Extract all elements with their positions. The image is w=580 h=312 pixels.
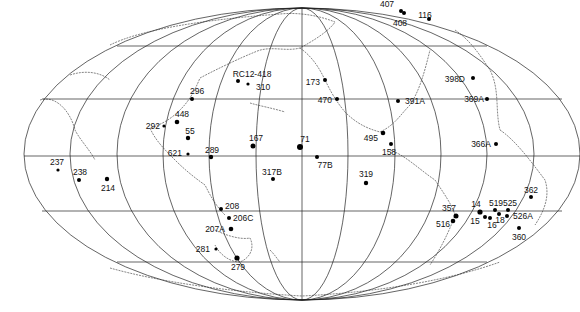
site-marker: 292: [146, 121, 166, 131]
coastlines: [40, 13, 547, 296]
site-dot-icon: [477, 209, 482, 214]
site-label: 519: [489, 198, 503, 208]
site-label: 207A: [205, 224, 225, 234]
site-dot-icon: [209, 155, 213, 159]
site-label: 292: [146, 121, 160, 131]
site-marker: 516: [436, 219, 455, 229]
site-dot-icon: [214, 247, 217, 250]
site-marker: 18: [495, 212, 505, 225]
site-dot-icon: [297, 144, 303, 150]
site-marker: 289: [205, 145, 219, 159]
graticule: [24, 8, 580, 300]
site-dot-icon: [364, 181, 368, 185]
site-label: 18: [495, 215, 505, 225]
site-marker: 366A: [471, 139, 498, 149]
site-label: 407: [380, 0, 394, 9]
site-dot-icon: [162, 124, 165, 127]
site-marker: 369A: [464, 94, 489, 104]
site-marker: 470: [318, 95, 339, 105]
site-label: 317B: [262, 167, 282, 177]
site-label: 208: [225, 201, 239, 211]
site-label: 15: [470, 216, 480, 226]
site-marker: 71: [297, 134, 310, 150]
site-marker: 495: [364, 131, 385, 143]
site-label: 214: [101, 183, 115, 193]
site-dot-icon: [506, 208, 510, 212]
site-marker: 207A: [205, 224, 233, 234]
site-dot-icon: [251, 144, 256, 149]
site-dot-icon: [236, 79, 240, 83]
site-dot-icon: [517, 226, 521, 230]
site-dot-icon: [234, 255, 239, 260]
site-marker: 15: [470, 215, 487, 226]
site-label: 516: [436, 219, 450, 229]
site-marker: 208: [219, 201, 239, 211]
site-label: 391A: [405, 96, 425, 106]
site-label: 526A: [513, 211, 533, 221]
site-dot-icon: [381, 131, 386, 136]
site-label: 238: [73, 167, 87, 177]
site-dot-icon: [105, 177, 109, 181]
site-marker: 391A: [396, 96, 425, 106]
site-label: 279: [231, 262, 245, 272]
site-label: 398D: [445, 74, 465, 84]
site-dot-icon: [229, 227, 234, 232]
site-marker: 448: [175, 109, 190, 124]
site-dot-icon: [505, 214, 509, 218]
site-marker: 214: [101, 177, 115, 193]
site-marker: 357: [442, 203, 459, 219]
site-marker: 238: [73, 167, 87, 182]
site-label: 281: [196, 244, 210, 254]
site-label: 71: [300, 134, 310, 144]
site-dot-icon: [271, 177, 275, 181]
site-dot-icon: [186, 136, 190, 140]
site-label: 369A: [464, 94, 484, 104]
site-marker: 158: [382, 142, 396, 157]
site-dot-icon: [493, 208, 497, 212]
site-label: 296: [190, 86, 204, 96]
site-label: RC12-418: [233, 69, 272, 79]
site-dot-icon: [315, 155, 319, 159]
site-label: 525: [503, 198, 517, 208]
site-dot-icon: [77, 178, 81, 182]
site-label: 77B: [317, 160, 332, 170]
site-label: 237: [50, 157, 64, 167]
site-label: 173: [306, 77, 320, 87]
site-label: 116: [418, 10, 432, 20]
site-dot-icon: [485, 97, 489, 101]
site-marker: 55: [185, 126, 195, 140]
site-marker: 317B: [262, 167, 282, 181]
site-dot-icon: [396, 99, 400, 103]
site-dot-icon: [227, 216, 231, 220]
site-dot-icon: [323, 78, 327, 82]
site-marker: 319: [359, 169, 373, 185]
site-marker: 237: [50, 157, 64, 172]
site-dot-icon: [190, 97, 194, 101]
site-dot-icon: [335, 97, 339, 101]
site-label: 319: [359, 169, 373, 179]
site-label: 495: [364, 133, 378, 143]
site-dot-icon: [186, 152, 189, 155]
site-dot-icon: [454, 214, 459, 219]
site-label: 366A: [471, 139, 491, 149]
site-dot-icon: [483, 215, 487, 219]
site-label: 621: [168, 148, 182, 158]
site-marker: 398D: [445, 74, 475, 84]
site-dot-icon: [529, 195, 533, 199]
site-label: 310: [256, 82, 270, 92]
site-label: 362: [524, 185, 538, 195]
world-map: 407408116398D369A391A366ARC12-4183101734…: [0, 0, 580, 312]
site-marker: 525: [503, 198, 517, 212]
site-dot-icon: [389, 142, 393, 146]
site-marker: 360: [512, 226, 526, 242]
site-marker: 206C: [227, 213, 253, 223]
site-label: 158: [382, 147, 396, 157]
site-dot-icon: [175, 120, 180, 125]
site-dot-icon: [402, 11, 406, 15]
site-label: 470: [318, 95, 332, 105]
site-marker: 519: [489, 198, 503, 212]
site-marker: 14: [471, 199, 482, 215]
site-dot-icon: [451, 219, 456, 224]
site-marker: 310: [246, 82, 270, 92]
site-dot-icon: [471, 76, 475, 80]
